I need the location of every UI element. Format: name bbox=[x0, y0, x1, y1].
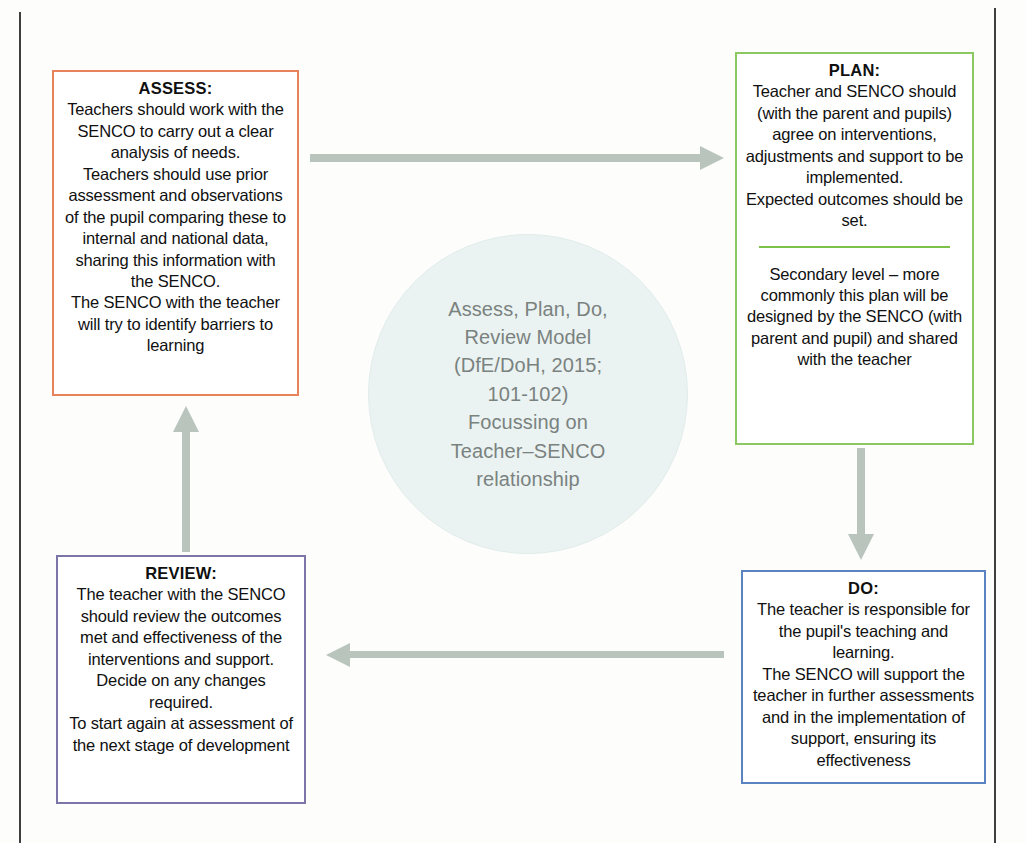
stage-box-do: DO: The teacher is responsible for the p… bbox=[741, 570, 986, 784]
arrow-head-up bbox=[173, 406, 199, 432]
arrow-shaft bbox=[348, 651, 724, 658]
arrow-shaft bbox=[310, 154, 702, 162]
stage-title-assess: ASSESS: bbox=[62, 78, 289, 99]
stage-body-assess: Teachers should work with the SENCO to c… bbox=[62, 99, 289, 356]
arrow-assess-to-plan-icon bbox=[310, 146, 724, 170]
stage-body-do: The teacher is responsible for the pupil… bbox=[751, 599, 976, 771]
diagram-page: ASSESS: Teachers should work with the SE… bbox=[0, 0, 1026, 843]
stage-title-review: REVIEW: bbox=[66, 563, 296, 584]
stage-body-plan-bottom: Secondary level – more commonly this pla… bbox=[745, 264, 964, 371]
stage-body-plan-top: Teacher and SENCO should (with the paren… bbox=[745, 81, 964, 231]
arrow-head-left bbox=[326, 643, 350, 667]
arrow-shaft bbox=[182, 430, 190, 552]
arrow-plan-to-do-icon bbox=[848, 448, 874, 560]
stage-title-plan: PLAN: bbox=[745, 60, 964, 81]
stage-title-do: DO: bbox=[751, 578, 976, 599]
stage-body-review: The teacher with the SENCO should review… bbox=[66, 584, 296, 756]
stage-divider-plan bbox=[759, 246, 950, 248]
stage-box-review: REVIEW: The teacher with the SENCO shoul… bbox=[56, 555, 306, 804]
arrow-head-right bbox=[700, 146, 724, 170]
centre-circle: Assess, Plan, Do, Review Model (DfE/DoH,… bbox=[368, 234, 688, 554]
arrow-review-to-assess-icon bbox=[173, 406, 199, 552]
centre-circle-label: Assess, Plan, Do, Review Model (DfE/DoH,… bbox=[414, 295, 642, 494]
arrow-do-to-review-icon bbox=[326, 643, 724, 667]
page-border-right bbox=[994, 8, 996, 843]
arrow-shaft bbox=[857, 448, 865, 536]
page-border-left bbox=[19, 12, 21, 843]
stage-box-plan: PLAN: Teacher and SENCO should (with the… bbox=[735, 52, 974, 445]
arrow-head-down bbox=[848, 534, 874, 560]
stage-box-assess: ASSESS: Teachers should work with the SE… bbox=[52, 70, 299, 396]
